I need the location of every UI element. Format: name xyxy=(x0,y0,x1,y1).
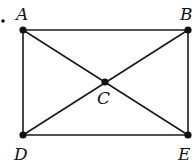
list-bullet-dot xyxy=(1,19,5,23)
point-C xyxy=(101,78,108,85)
label-E: E xyxy=(177,144,191,164)
rectangle-diagonals-diagram: A B C D E xyxy=(0,0,192,164)
label-A: A xyxy=(14,4,28,24)
label-B: B xyxy=(179,4,192,24)
point-B xyxy=(184,26,191,33)
point-A xyxy=(19,26,26,33)
label-D: D xyxy=(13,144,28,164)
label-C: C xyxy=(97,88,110,108)
point-D xyxy=(19,131,26,138)
point-E xyxy=(184,131,191,138)
